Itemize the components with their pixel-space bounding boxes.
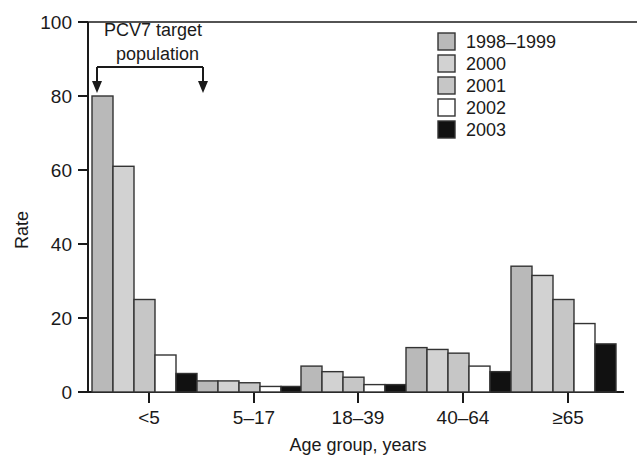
bar xyxy=(176,374,197,393)
bar xyxy=(385,385,406,392)
x-axis-title: Age group, years xyxy=(289,435,426,455)
chart-canvas: 100 80 60 40 20 0 Rate <5 5–17 18–39 40–… xyxy=(0,0,637,456)
bar xyxy=(511,266,532,392)
pcv7-bracket-annotation xyxy=(92,67,208,93)
bar xyxy=(490,372,511,392)
annotation-line-1: PCV7 target xyxy=(104,20,202,40)
bar xyxy=(322,372,343,392)
x-tick-label: 40–64 xyxy=(437,407,490,428)
bar xyxy=(532,275,553,392)
y-tick-label: 20 xyxy=(51,308,72,329)
annotation-line-2: population xyxy=(116,44,199,64)
bar xyxy=(406,348,427,392)
y-axis-ticks xyxy=(78,22,88,392)
bar xyxy=(281,386,302,392)
legend-label: 2002 xyxy=(466,98,506,118)
x-axis-ticks xyxy=(149,392,568,403)
bar xyxy=(113,166,134,392)
x-axis-tick-labels: <5 5–17 18–39 40–64 ≥65 xyxy=(138,407,584,428)
x-tick-label: ≥65 xyxy=(552,407,584,428)
x-tick-label: <5 xyxy=(138,407,160,428)
legend-swatch xyxy=(438,55,455,72)
bar xyxy=(574,324,595,392)
legend-swatch xyxy=(438,33,455,50)
bar xyxy=(197,381,218,392)
bar xyxy=(92,96,113,392)
y-tick-label: 60 xyxy=(51,160,72,181)
legend-label: 2003 xyxy=(466,120,506,140)
down-arrow-icon xyxy=(92,81,102,93)
bar xyxy=(364,385,385,392)
y-tick-label: 40 xyxy=(51,234,72,255)
x-tick-label: 18–39 xyxy=(332,407,385,428)
y-axis-title: Rate xyxy=(12,211,32,249)
bar xyxy=(218,381,239,392)
x-tick-label: 5–17 xyxy=(233,407,275,428)
bar-chart-figure: 100 80 60 40 20 0 Rate <5 5–17 18–39 40–… xyxy=(0,0,637,456)
legend-swatch xyxy=(438,77,455,94)
bar xyxy=(448,353,469,392)
pcv7-annotation-text: PCV7 target population xyxy=(104,20,202,64)
bars-group xyxy=(92,96,616,392)
bar xyxy=(239,383,260,392)
legend-swatch xyxy=(438,99,455,116)
bar xyxy=(427,349,448,392)
bar xyxy=(260,386,281,392)
y-tick-label: 0 xyxy=(61,382,72,403)
bar xyxy=(553,300,574,393)
legend-label: 2000 xyxy=(466,54,506,74)
bar xyxy=(595,344,616,392)
chart-legend: 1998–19992000200120022003 xyxy=(438,32,556,140)
bar xyxy=(134,300,155,393)
down-arrow-icon xyxy=(198,81,208,93)
bar xyxy=(469,366,490,392)
y-tick-label: 80 xyxy=(51,86,72,107)
y-axis-tick-labels: 100 80 60 40 20 0 xyxy=(40,12,72,403)
y-tick-label: 100 xyxy=(40,12,72,33)
legend-swatch xyxy=(438,121,455,138)
legend-label: 2001 xyxy=(466,76,506,96)
bar xyxy=(343,377,364,392)
legend-label: 1998–1999 xyxy=(466,32,556,52)
bar xyxy=(301,366,322,392)
bar xyxy=(155,355,176,392)
